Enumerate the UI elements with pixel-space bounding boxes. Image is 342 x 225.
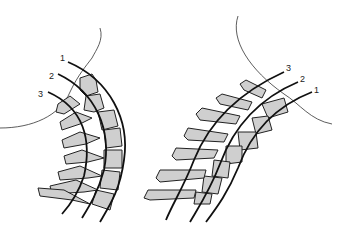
- right-label-2: 2: [300, 74, 305, 84]
- right-label-1: 1: [314, 85, 319, 95]
- left-panel-flexion: 1 2 3: [0, 28, 125, 222]
- left-label-2: 2: [49, 71, 54, 81]
- right-label-3: 3: [286, 63, 291, 73]
- left-label-3: 3: [38, 89, 43, 99]
- spine-diagram: 1 2 3 3 2 1: [0, 0, 342, 225]
- right-panel-extension: 3 2 1: [144, 16, 332, 222]
- left-label-1: 1: [60, 53, 65, 63]
- right-vertebrae: [144, 80, 288, 204]
